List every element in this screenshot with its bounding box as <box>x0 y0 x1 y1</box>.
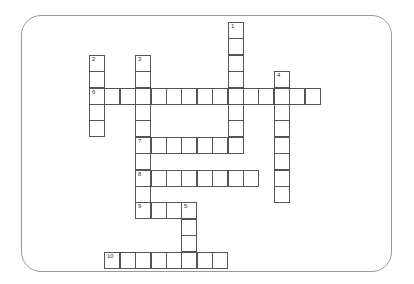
crossword-cell[interactable] <box>135 153 151 170</box>
crossword-cell[interactable] <box>274 88 290 105</box>
crossword-cell[interactable] <box>181 170 197 187</box>
crossword-cell[interactable] <box>151 137 167 154</box>
crossword-cell[interactable] <box>243 170 259 187</box>
clue-number: 2 <box>92 56 95 63</box>
crossword-cell[interactable] <box>135 120 151 137</box>
crossword-cell[interactable]: 7 <box>135 137 151 154</box>
clue-number: 4 <box>277 72 280 79</box>
crossword-cell[interactable] <box>181 137 197 154</box>
crossword-cell[interactable] <box>166 170 182 187</box>
crossword-cell[interactable]: 6 <box>89 88 105 105</box>
crossword-cell[interactable] <box>228 137 244 154</box>
crossword-cell[interactable] <box>228 120 244 137</box>
crossword-cell[interactable] <box>166 252 182 269</box>
crossword-cell[interactable] <box>89 104 105 121</box>
crossword-cell[interactable] <box>258 88 274 105</box>
crossword-cell[interactable] <box>228 38 244 55</box>
crossword-cell[interactable] <box>228 71 244 88</box>
crossword-cell[interactable] <box>104 88 120 105</box>
clue-number: 1 <box>231 23 234 30</box>
crossword-cell[interactable] <box>197 137 213 154</box>
crossword-cell[interactable]: 1 <box>228 22 244 39</box>
clue-number: 10 <box>107 253 114 260</box>
crossword-cell[interactable] <box>181 88 197 105</box>
crossword-cell[interactable] <box>151 88 167 105</box>
crossword-cell[interactable] <box>135 186 151 203</box>
crossword-cell[interactable] <box>89 120 105 137</box>
crossword-cell[interactable] <box>212 137 228 154</box>
crossword-cell[interactable] <box>212 170 228 187</box>
crossword-cell[interactable] <box>243 88 259 105</box>
crossword-cell[interactable] <box>135 104 151 121</box>
crossword-cell[interactable] <box>135 252 151 269</box>
clue-number: 8 <box>138 171 141 178</box>
crossword-cell[interactable] <box>274 120 290 137</box>
crossword-cell[interactable] <box>135 71 151 88</box>
crossword-cell[interactable] <box>212 252 228 269</box>
crossword-cell[interactable] <box>89 71 105 88</box>
crossword-cell[interactable]: 4 <box>274 71 290 88</box>
crossword-cell[interactable]: 3 <box>135 55 151 72</box>
crossword-cell[interactable] <box>197 170 213 187</box>
crossword-cell[interactable] <box>120 252 136 269</box>
crossword-cell[interactable]: 5 <box>181 202 197 219</box>
crossword-cell[interactable] <box>151 202 167 219</box>
crossword-cell[interactable] <box>274 170 290 187</box>
crossword-cell[interactable] <box>228 170 244 187</box>
crossword-cell[interactable] <box>274 153 290 170</box>
crossword-cell[interactable] <box>274 104 290 121</box>
crossword-cell[interactable] <box>274 186 290 203</box>
crossword-cell[interactable] <box>166 88 182 105</box>
clue-number: 9 <box>138 203 141 210</box>
crossword-cell[interactable] <box>166 137 182 154</box>
clue-number: 5 <box>184 203 187 210</box>
crossword-cell[interactable]: 8 <box>135 170 151 187</box>
clue-number: 6 <box>92 89 95 96</box>
crossword-cell[interactable]: 9 <box>135 202 151 219</box>
crossword-cell[interactable] <box>181 219 197 236</box>
crossword-cell[interactable]: 2 <box>89 55 105 72</box>
clue-number: 7 <box>138 138 141 145</box>
crossword-cell[interactable]: 10 <box>104 252 120 269</box>
crossword-cell[interactable] <box>166 202 182 219</box>
crossword-cell[interactable] <box>212 88 228 105</box>
crossword-cell[interactable] <box>197 88 213 105</box>
crossword-cell[interactable] <box>228 88 244 105</box>
crossword-cell[interactable] <box>120 88 136 105</box>
crossword-cell[interactable] <box>151 252 167 269</box>
crossword-cell[interactable] <box>181 235 197 252</box>
clue-number: 3 <box>138 56 141 63</box>
crossword-cell[interactable] <box>228 55 244 72</box>
crossword-cell[interactable] <box>197 252 213 269</box>
crossword-cell[interactable] <box>135 88 151 105</box>
crossword-cell[interactable] <box>305 88 321 105</box>
crossword-cell[interactable] <box>228 104 244 121</box>
crossword-cell[interactable] <box>181 252 197 269</box>
crossword-cell[interactable] <box>289 88 305 105</box>
crossword-cell[interactable] <box>274 137 290 154</box>
crossword-cell[interactable] <box>151 170 167 187</box>
